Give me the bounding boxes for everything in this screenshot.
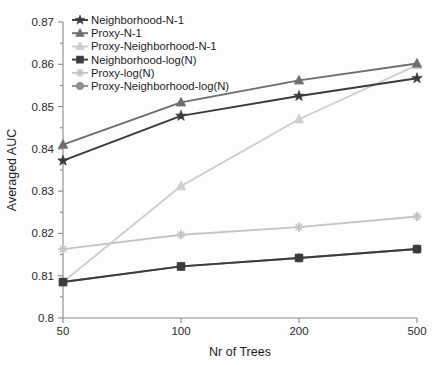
- line-chart: 0.80.810.820.830.840.850.860.87Averaged …: [0, 0, 436, 365]
- x-tick-label: 50: [57, 325, 70, 337]
- marker-star: [294, 90, 305, 100]
- legend-item-label: Proxy-log(N): [91, 67, 155, 79]
- marker-star: [412, 73, 423, 83]
- legend-item-label: Neighborhood-log(N): [91, 54, 197, 66]
- marker-triangle: [176, 181, 186, 190]
- legend-item[interactable]: Proxy-Neighborhood-N-1: [72, 40, 217, 52]
- x-axis-title: Nr of Trees: [209, 345, 271, 359]
- legend-item-label: Proxy-N-1: [91, 27, 142, 39]
- marker-square: [413, 245, 421, 253]
- series-3: [59, 245, 421, 286]
- series-5: [59, 245, 421, 286]
- y-tick-label: 0.81: [32, 270, 54, 282]
- marker-plus: [176, 230, 185, 239]
- legend-item[interactable]: Neighborhood-N-1: [72, 14, 184, 26]
- marker-triangle: [412, 58, 422, 67]
- y-tick-label: 0.8: [38, 312, 54, 324]
- marker-square: [295, 254, 303, 262]
- marker-square: [76, 56, 83, 63]
- y-axis-title: Averaged AUC: [5, 129, 19, 211]
- marker-plus: [58, 244, 67, 253]
- legend-item[interactable]: Proxy-log(N): [72, 67, 155, 79]
- y-tick-label: 0.86: [32, 58, 54, 70]
- x-tick-label: 500: [407, 325, 426, 337]
- series-4: [58, 212, 421, 254]
- series-line: [63, 217, 417, 250]
- legend: Neighborhood-N-1Proxy-N-1Proxy-Neighborh…: [72, 14, 229, 92]
- y-tick-label: 0.84: [32, 143, 55, 155]
- x-tick-label: 100: [171, 325, 190, 337]
- y-tick-label: 0.82: [32, 227, 54, 239]
- marker-plus: [76, 69, 84, 77]
- y-tick-label: 0.83: [32, 185, 54, 197]
- legend-item[interactable]: Proxy-Neighborhood-log(N): [72, 80, 229, 92]
- marker-star: [75, 15, 85, 24]
- legend-item-label: Proxy-Neighborhood-log(N): [91, 80, 229, 92]
- legend-item[interactable]: Neighborhood-log(N): [72, 54, 197, 66]
- series-line: [63, 249, 417, 282]
- marker-square: [59, 278, 67, 286]
- marker-circle: [76, 82, 84, 90]
- marker-square: [177, 263, 185, 271]
- marker-plus: [294, 222, 303, 231]
- x-tick-label: 200: [289, 325, 308, 337]
- y-tick-label: 0.85: [32, 101, 54, 113]
- chart-figure: 0.80.810.820.830.840.850.860.87Averaged …: [0, 0, 436, 365]
- series-line: [63, 65, 417, 282]
- marker-plus: [412, 212, 421, 221]
- y-tick-label: 0.87: [32, 16, 54, 28]
- legend-item[interactable]: Proxy-N-1: [72, 27, 142, 39]
- legend-item-label: Neighborhood-N-1: [91, 14, 184, 26]
- legend-item-label: Proxy-Neighborhood-N-1: [91, 40, 217, 52]
- marker-star: [176, 110, 187, 120]
